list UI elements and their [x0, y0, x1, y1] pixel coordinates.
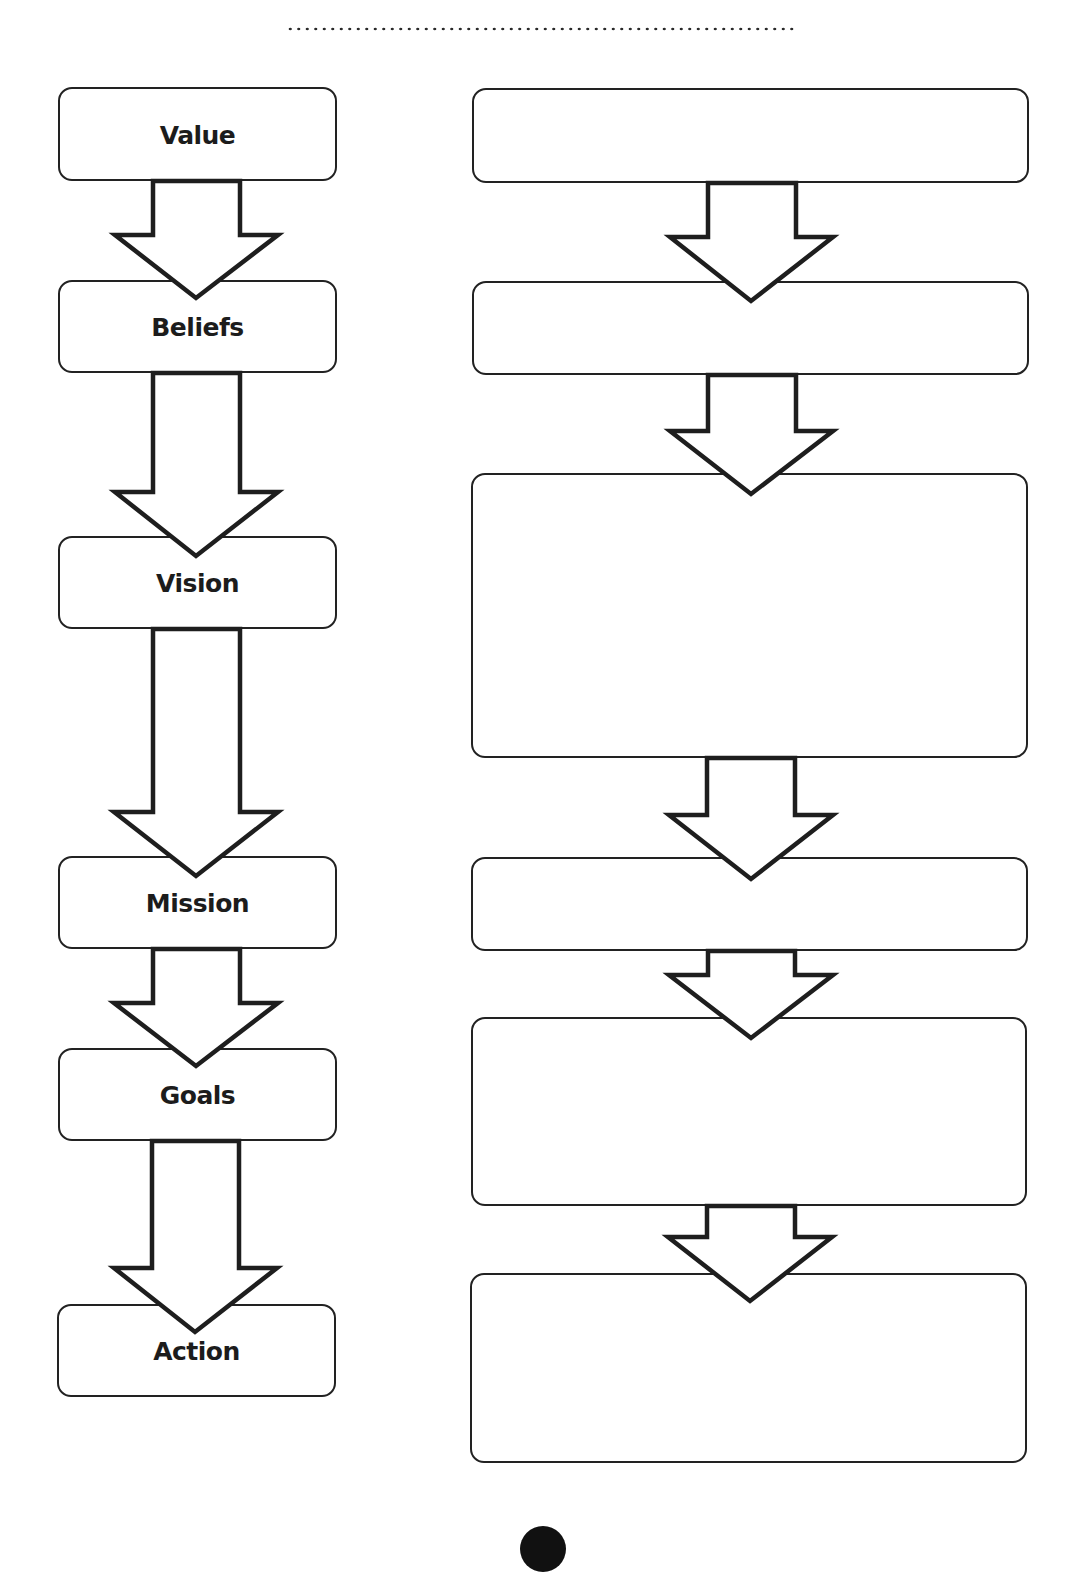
- left-box-label: Mission: [146, 889, 249, 918]
- left-box-label: Value: [160, 121, 236, 150]
- right-box-6-blank[interactable]: [470, 1273, 1027, 1463]
- down-arrow-icon: [115, 373, 278, 556]
- left-box-goals: Goals: [58, 1048, 337, 1141]
- left-box-beliefs: Beliefs: [58, 280, 337, 373]
- left-box-label: Beliefs: [151, 313, 243, 342]
- right-box-2-blank[interactable]: [472, 281, 1029, 375]
- left-box-label: Goals: [160, 1081, 236, 1110]
- left-box-vision: Vision: [58, 536, 337, 629]
- left-box-action: Action: [57, 1304, 336, 1397]
- left-box-label: Action: [153, 1337, 240, 1366]
- page-number-circle: [520, 1526, 566, 1572]
- right-box-1-blank[interactable]: [472, 88, 1029, 183]
- left-box-label: Vision: [156, 569, 239, 598]
- left-box-mission: Mission: [58, 856, 337, 949]
- left-box-value: Value: [58, 87, 337, 181]
- right-box-3-blank[interactable]: [471, 473, 1028, 758]
- right-box-4-blank[interactable]: [471, 857, 1028, 951]
- title-blank-line: [286, 27, 796, 31]
- down-arrow-icon: [114, 629, 278, 876]
- right-box-5-blank[interactable]: [471, 1017, 1027, 1206]
